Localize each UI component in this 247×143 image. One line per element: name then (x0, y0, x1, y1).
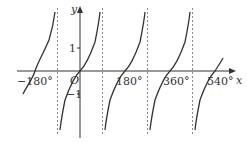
y-tick-label-1: 1 (69, 42, 76, 55)
y-axis-label: y (70, 3, 78, 16)
x-axis-label: x (236, 74, 243, 87)
tangent-graph: y x O 1 −1 −180° 180° 360° 540° (0, 0, 247, 143)
x-tick-label-180: 180° (116, 75, 143, 88)
tan-branch-540 (195, 58, 223, 130)
x-tick-label-360: 360° (163, 75, 190, 88)
x-tick-label-neg180: −180° (17, 75, 53, 88)
x-tick-label-540: 540° (207, 75, 234, 88)
y-axis-arrow-icon (77, 6, 83, 13)
origin-label: O (70, 74, 79, 87)
x-axis-arrow-icon (229, 68, 236, 74)
y-tick-label-neg1: −1 (66, 88, 82, 101)
